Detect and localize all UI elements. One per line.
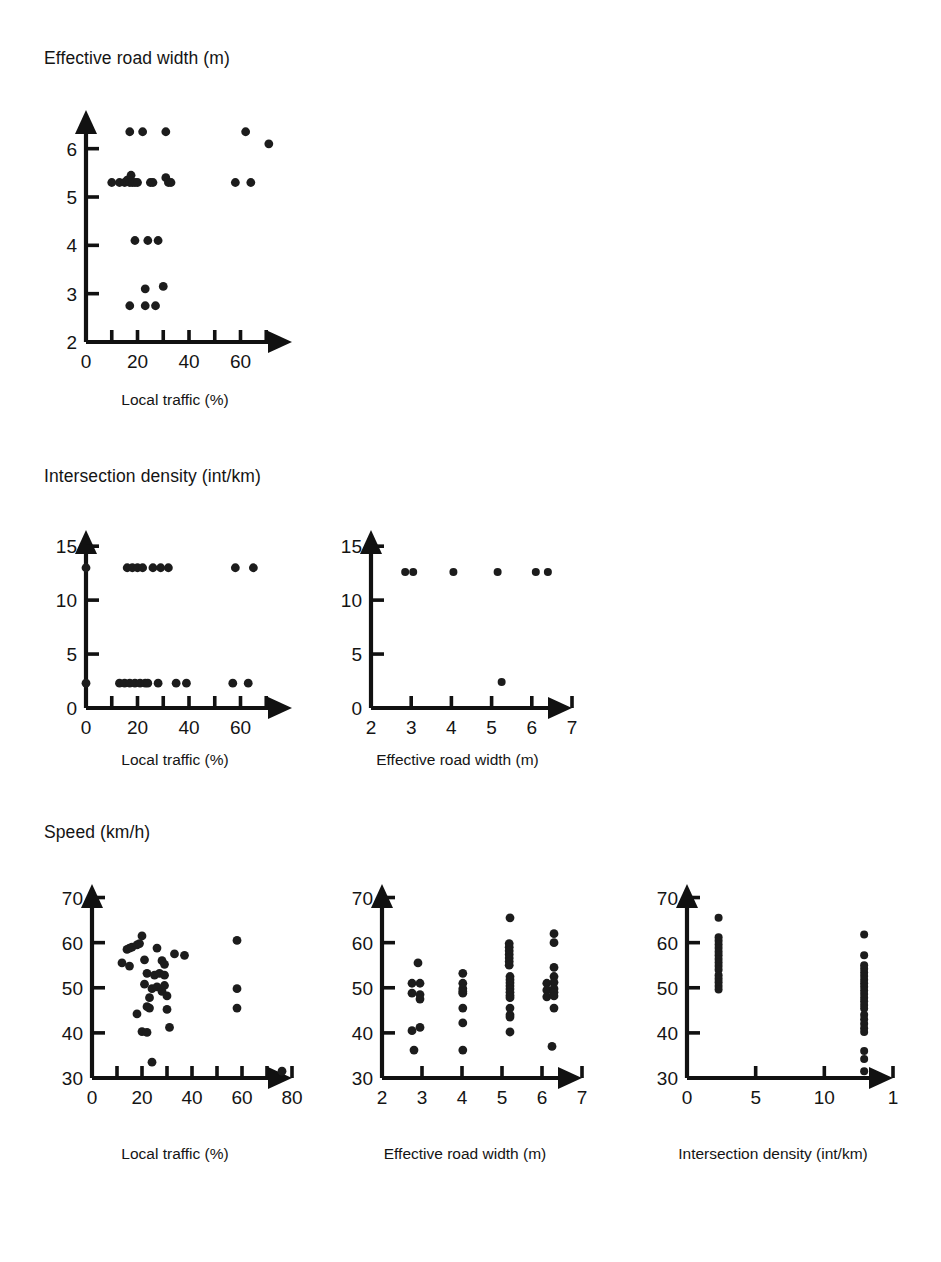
data-point <box>151 301 160 310</box>
plot-area-road-width-vs-local-traffic: 020406023456 <box>40 88 310 388</box>
data-point <box>278 1067 287 1076</box>
data-point <box>149 563 158 572</box>
data-point <box>161 127 170 136</box>
svg-text:10: 10 <box>341 590 362 611</box>
svg-text:0: 0 <box>351 698 362 719</box>
data-point <box>860 1055 868 1063</box>
data-point <box>153 944 162 953</box>
data-point <box>182 679 191 688</box>
plot-area-speed-vs-local-traffic: 0204060803040506070 <box>40 862 310 1118</box>
data-point <box>160 971 169 980</box>
data-point <box>160 960 169 969</box>
data-point <box>494 568 502 576</box>
data-point <box>860 1047 868 1055</box>
data-point <box>506 913 515 922</box>
data-point <box>506 1028 515 1037</box>
data-point <box>141 301 150 310</box>
data-point <box>233 984 242 993</box>
svg-text:40: 40 <box>62 1023 83 1044</box>
y-axis-ticks: 23456 <box>66 139 99 353</box>
data-point <box>409 568 417 576</box>
svg-text:60: 60 <box>657 933 678 954</box>
data-point <box>544 568 552 576</box>
data-point <box>135 939 144 948</box>
data-point <box>408 1026 417 1035</box>
data-point <box>170 950 179 959</box>
axes <box>75 110 292 353</box>
panel-speed-vs-local-traffic: 0204060803040506070 <box>40 862 310 1118</box>
row-title-intersection-density: Intersection density (int/km) <box>44 466 261 487</box>
svg-text:0: 0 <box>66 698 77 719</box>
data-point <box>143 679 152 688</box>
plot-area-intersection-density-vs-road-width: 234567051015 <box>325 508 590 748</box>
y-axis-ticks: 3040506070 <box>657 888 700 1089</box>
svg-text:3: 3 <box>417 1087 428 1108</box>
data-point <box>498 678 506 686</box>
svg-text:60: 60 <box>230 717 251 738</box>
data-point <box>141 284 150 293</box>
data-point <box>125 301 134 310</box>
data-point <box>449 568 457 576</box>
plot-area-speed-vs-road-width: 2345673040506070 <box>330 862 600 1118</box>
data-point <box>172 679 181 688</box>
svg-text:5: 5 <box>66 187 77 208</box>
xlabel-panel-2: Effective road width (m) <box>325 751 590 769</box>
svg-text:0: 0 <box>81 351 92 372</box>
xlabel-panel-5: Intersection density (int/km) <box>628 1145 918 1163</box>
svg-text:5: 5 <box>497 1087 508 1108</box>
svg-text:60: 60 <box>231 1087 252 1108</box>
data-point <box>410 1046 419 1055</box>
svg-text:10: 10 <box>56 590 77 611</box>
svg-text:4: 4 <box>457 1087 468 1108</box>
data-point <box>860 1067 868 1075</box>
data-point <box>163 991 172 1000</box>
data-point <box>145 993 154 1002</box>
data-points <box>401 568 552 686</box>
data-point <box>138 127 147 136</box>
svg-text:30: 30 <box>352 1068 373 1089</box>
data-points <box>408 913 559 1054</box>
data-point <box>550 938 559 947</box>
axes <box>81 884 292 1089</box>
panel-speed-vs-intersection-density: 051013040506070 <box>635 862 915 1118</box>
data-point <box>550 1004 559 1013</box>
x-axis-ticks: 0204060 <box>81 330 267 372</box>
data-point <box>416 1023 425 1032</box>
svg-text:40: 40 <box>657 1023 678 1044</box>
svg-text:70: 70 <box>352 888 373 909</box>
data-points <box>715 914 869 1075</box>
data-point <box>458 1004 467 1013</box>
data-point <box>165 1023 174 1032</box>
svg-text:5: 5 <box>66 644 77 665</box>
data-point <box>82 679 91 688</box>
data-point <box>160 981 169 990</box>
data-point <box>506 1013 515 1022</box>
svg-text:20: 20 <box>131 1087 152 1108</box>
y-axis-ticks: 051015 <box>56 536 99 719</box>
data-point <box>231 563 240 572</box>
data-point <box>163 1005 172 1014</box>
data-point <box>154 236 163 245</box>
data-point <box>167 178 176 187</box>
data-point <box>550 929 559 938</box>
data-point <box>715 986 723 994</box>
data-point <box>246 178 255 187</box>
data-point <box>133 1010 142 1019</box>
svg-text:50: 50 <box>62 978 83 999</box>
data-point <box>233 1004 242 1013</box>
data-point <box>401 568 409 576</box>
data-point <box>125 127 134 136</box>
plot-area-speed-vs-intersection-density: 051013040506070 <box>635 862 915 1118</box>
svg-text:50: 50 <box>352 978 373 999</box>
scatter-plot-matrix-figure: Effective road width (m) 020406023456 Lo… <box>0 0 941 1262</box>
data-point <box>164 563 173 572</box>
data-point <box>118 959 127 968</box>
xlabel-panel-3: Local traffic (%) <box>40 1145 310 1163</box>
data-point <box>860 1028 868 1036</box>
xlabel-panel-1: Local traffic (%) <box>40 751 310 769</box>
data-point <box>532 568 540 576</box>
data-point <box>143 1028 152 1037</box>
svg-text:7: 7 <box>577 1087 588 1108</box>
data-point <box>505 961 514 970</box>
svg-text:40: 40 <box>178 351 199 372</box>
